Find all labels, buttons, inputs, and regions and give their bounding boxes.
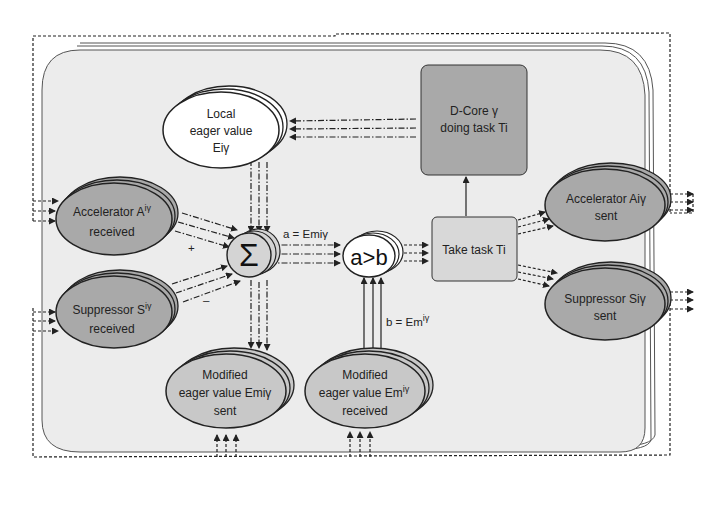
label-b-sup: iγ (423, 313, 430, 323)
svg-text:eager value Emiγ: eager value Emiγ (319, 384, 410, 400)
diagram-canvas: Local eager value Eiγ D-Core γ doing tas… (0, 0, 723, 521)
mod-sent-line1: Modified (202, 368, 247, 382)
edge-accelsent-out (670, 194, 693, 213)
sigma-symbol: Σ (239, 237, 259, 273)
mod-recv-line3: received (342, 404, 387, 418)
compare-symbol: a>b (350, 245, 387, 270)
mod-recv-line2: eager value Em (319, 386, 403, 400)
node-take-task: Take task Ti (432, 217, 517, 281)
svg-text:Suppressor Siγ: Suppressor Siγ (72, 301, 152, 317)
mod-recv-sup: iγ (403, 384, 410, 394)
mod-sent-line2: eager value Emiγ (179, 386, 272, 400)
label-plus: + (188, 242, 195, 254)
take-task-label: Take task Ti (442, 243, 505, 257)
accel-sent-line2: sent (595, 209, 618, 223)
accel-sent-line1: Accelerator Aiγ (566, 192, 646, 206)
suppr-received-sup: iγ (145, 301, 152, 311)
dcore-line2: doing task Ti (440, 121, 507, 135)
accel-received-sup: iγ (144, 203, 151, 213)
label-a-equals: a = Emiγ (283, 228, 328, 240)
mod-sent-line3: sent (214, 404, 237, 418)
suppr-sent-line2: sent (594, 309, 617, 323)
local-eager-line1: Local (207, 107, 236, 121)
accel-received-line2: received (89, 225, 134, 239)
node-dcore: D-Core γ doing task Ti (421, 65, 527, 175)
local-eager-line2: eager value (190, 124, 253, 138)
local-eager-line3: Eiγ (213, 141, 230, 155)
suppr-sent-line1: Suppressor Siγ (564, 292, 645, 306)
label-b-equals: b = Em (386, 316, 423, 328)
label-minus: – (203, 294, 210, 306)
dcore-line1: D-Core γ (450, 104, 498, 118)
svg-text:Accelerator Aiγ: Accelerator Aiγ (73, 203, 151, 219)
mod-recv-line1: Modified (342, 368, 387, 382)
suppr-received-line2: received (89, 322, 134, 336)
suppr-received-line1: Suppressor S (72, 303, 145, 317)
accel-received-line1: Accelerator A (73, 205, 144, 219)
